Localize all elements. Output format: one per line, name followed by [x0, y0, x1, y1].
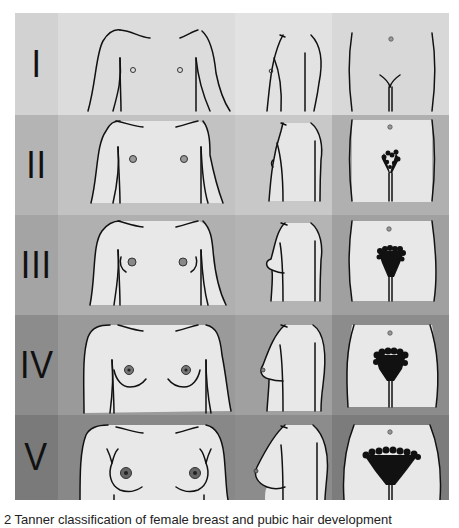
- pubic-hair-illustration: [332, 13, 449, 115]
- breast-front-illustration: [58, 415, 235, 500]
- stage-row-2: II: [15, 115, 449, 215]
- pubic-hair-view: [332, 13, 449, 115]
- breast-side-view: [235, 415, 332, 500]
- breast-side-illustration: [235, 115, 332, 215]
- pubic-hair-view: [332, 315, 449, 415]
- pubic-hair-illustration: [332, 415, 449, 500]
- stage-label-cell: I: [15, 13, 58, 115]
- breast-side-view: [235, 215, 332, 315]
- stage-label-cell: V: [15, 415, 58, 500]
- breast-front-view: [58, 215, 235, 315]
- stage-row-4: IV: [15, 315, 449, 415]
- stage-label: II: [26, 144, 47, 187]
- breast-side-illustration: [235, 415, 332, 500]
- breast-side-view: [235, 115, 332, 215]
- breast-front-illustration: [58, 115, 235, 215]
- stage-label: V: [25, 436, 49, 479]
- pubic-hair-view: [332, 215, 449, 315]
- breast-side-illustration: [235, 215, 332, 315]
- pubic-hair-illustration: [332, 215, 449, 315]
- stage-label: III: [21, 244, 52, 287]
- breast-front-illustration: [58, 315, 235, 415]
- stage-row-3: III: [15, 215, 449, 315]
- breast-side-view: [235, 13, 332, 115]
- breast-front-view: [58, 115, 235, 215]
- breast-front-illustration: [58, 215, 235, 315]
- pubic-hair-illustration: [332, 115, 449, 215]
- stage-row-1: I: [15, 13, 449, 115]
- stage-label: I: [31, 43, 41, 86]
- breast-side-view: [235, 315, 332, 415]
- pubic-hair-view: [332, 115, 449, 215]
- stage-label-cell: IV: [15, 315, 58, 415]
- tanner-stage-grid: I: [15, 13, 449, 500]
- breast-front-view: [58, 13, 235, 115]
- stage-label-cell: III: [15, 215, 58, 315]
- breast-front-view: [58, 415, 235, 500]
- stage-label: IV: [19, 344, 53, 387]
- breast-front-illustration: [58, 13, 235, 115]
- pubic-hair-view: [332, 415, 449, 500]
- figure-caption: 2 Tanner classification of female breast…: [4, 512, 392, 527]
- stage-row-5: V: [15, 415, 449, 500]
- breast-side-illustration: [235, 13, 332, 115]
- breast-side-illustration: [235, 315, 332, 415]
- stage-label-cell: II: [15, 115, 58, 215]
- breast-front-view: [58, 315, 235, 415]
- pubic-hair-illustration: [332, 315, 449, 415]
